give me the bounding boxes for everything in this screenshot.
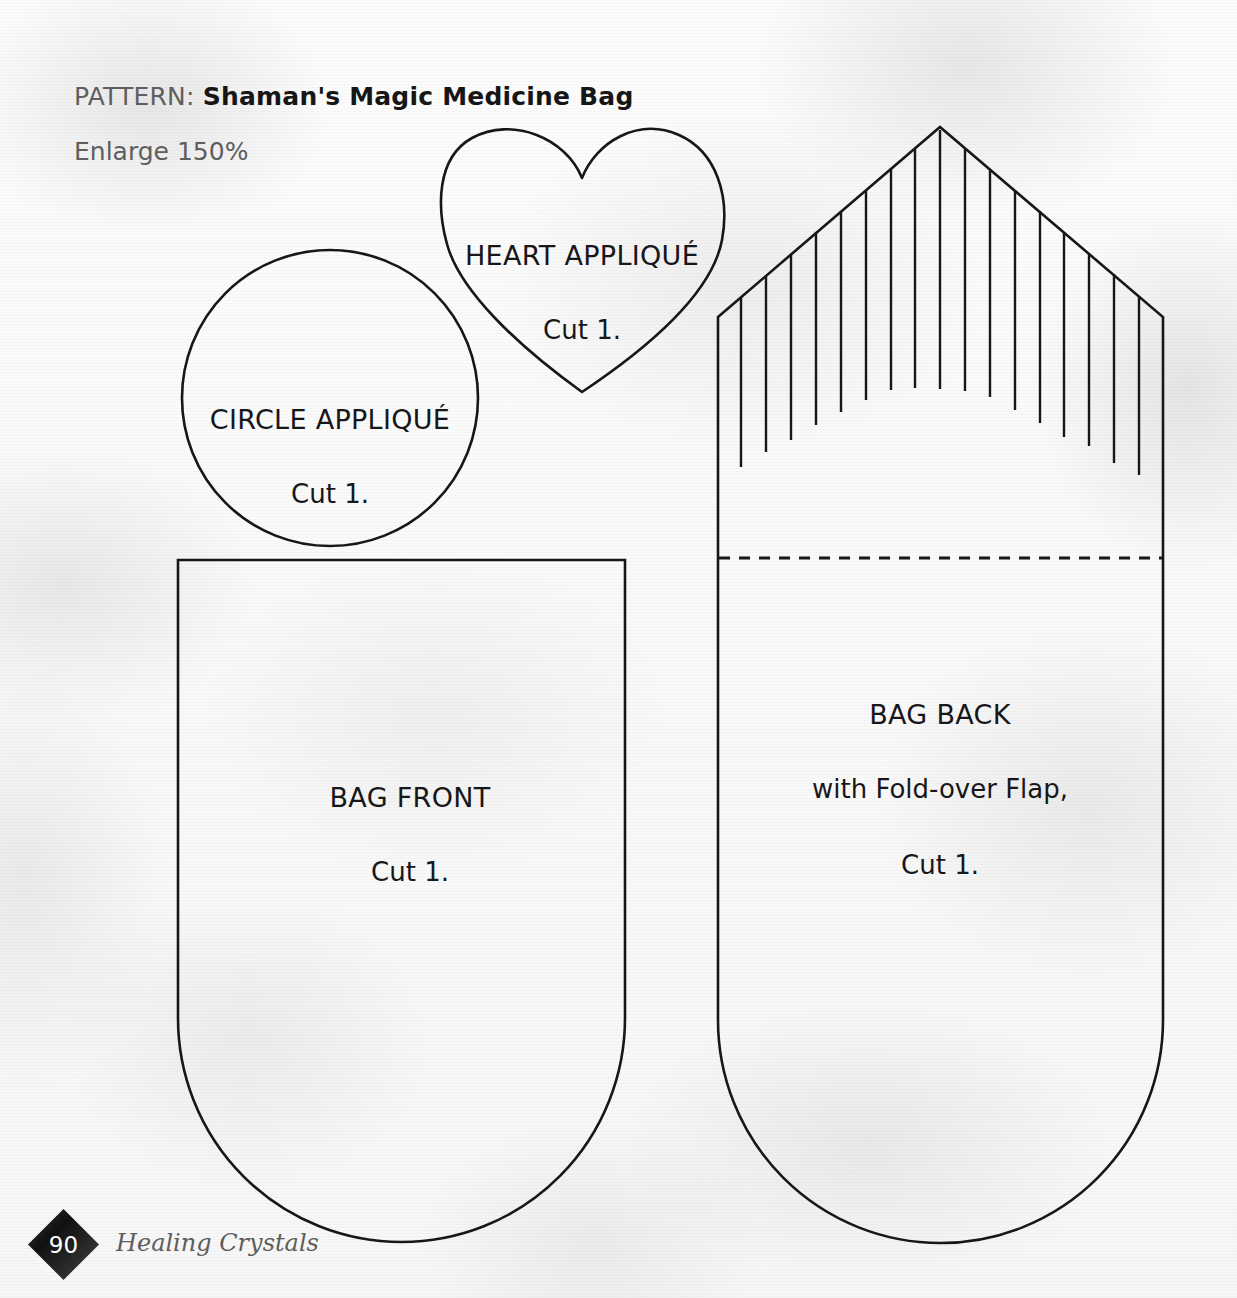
- bag-front-label: BAG FRONT Cut 1.: [260, 738, 560, 932]
- bag-back-label: BAG BACK with Fold-over Flap, Cut 1.: [790, 655, 1090, 924]
- pattern-label: PATTERN:: [74, 82, 195, 111]
- bag-front-cut: Cut 1.: [260, 856, 560, 890]
- book-title: Healing Crystals: [116, 1229, 319, 1257]
- heart-applique-cut: Cut 1.: [432, 314, 732, 348]
- circle-applique-cut: Cut 1.: [180, 478, 480, 512]
- pattern-page: PATTERN: Shaman's Magic Medicine Bag Enl…: [0, 0, 1237, 1298]
- enlarge-note: Enlarge 150%: [74, 137, 248, 166]
- pattern-name: Shaman's Magic Medicine Bag: [203, 82, 634, 111]
- pattern-drawing: [0, 0, 1237, 1298]
- bag-back-subtitle: with Fold-over Flap,: [790, 773, 1090, 807]
- circle-applique-title: CIRCLE APPLIQUÉ: [180, 402, 480, 437]
- bag-back-fringe-lines: [741, 130, 1139, 475]
- heart-applique-title: HEART APPLIQUÉ: [432, 238, 732, 273]
- bag-back-title: BAG BACK: [790, 697, 1090, 732]
- bag-back-cut: Cut 1.: [790, 849, 1090, 883]
- heart-applique-label: HEART APPLIQUÉ Cut 1.: [432, 196, 732, 390]
- pattern-header: PATTERN: Shaman's Magic Medicine Bag: [74, 82, 634, 111]
- page-number: 90: [27, 1208, 100, 1281]
- bag-front-title: BAG FRONT: [260, 780, 560, 815]
